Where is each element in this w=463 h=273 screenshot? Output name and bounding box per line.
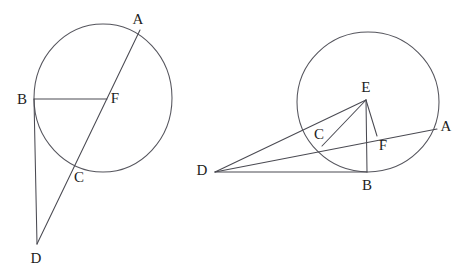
- left-point-label-F: F: [111, 91, 120, 106]
- right-point-label-A: A: [440, 119, 451, 134]
- right-point-label-F: F: [379, 138, 388, 153]
- right-point-label-B: B: [362, 178, 372, 193]
- left-circle: [34, 24, 172, 172]
- geometry-canvas: [0, 0, 463, 273]
- segment-D-A-right: [215, 129, 437, 172]
- left-point-label-A: A: [132, 12, 143, 27]
- left-point-label-D: D: [30, 251, 41, 266]
- right-circle: [297, 32, 439, 172]
- segment-E-F-right: [366, 100, 377, 136]
- right-circle-diagram: [215, 32, 439, 172]
- geometry-figure: A B C D F A B C D E F: [0, 0, 463, 273]
- segment-E-C-right: [322, 100, 366, 146]
- right-point-label-E: E: [361, 80, 370, 95]
- segment-A-D-left: [37, 30, 140, 244]
- right-point-label-C: C: [314, 127, 324, 142]
- left-circle-diagram: [34, 24, 172, 244]
- segment-B-D-left: [34, 99, 37, 244]
- right-point-label-D: D: [196, 163, 207, 178]
- left-point-label-C: C: [74, 170, 84, 185]
- segment-D-E-right: [215, 100, 366, 172]
- left-point-label-B: B: [17, 92, 27, 107]
- segment-E-B-right: [366, 100, 367, 172]
